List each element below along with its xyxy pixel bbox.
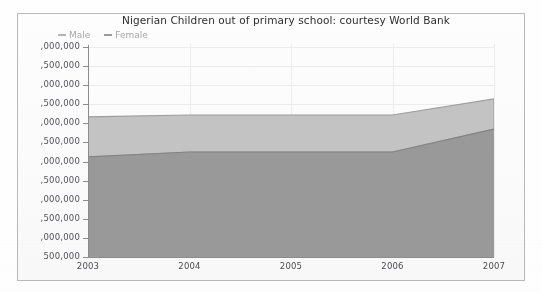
legend-item-male[interactable]: Male	[58, 30, 90, 40]
y-axis-line	[88, 45, 89, 258]
chart-legend: Male Female	[58, 30, 148, 40]
chart-title: Nigerian Children out of primary school:…	[0, 14, 542, 26]
chart-screenshot: Nigerian Children out of primary school:…	[0, 0, 542, 292]
x-axis-line	[88, 257, 494, 258]
legend-label-male: Male	[69, 30, 90, 40]
plot-area	[88, 44, 494, 258]
legend-item-female[interactable]: Female	[104, 30, 148, 40]
legend-label-female: Female	[115, 30, 148, 40]
series-areas	[88, 44, 494, 258]
legend-dash-icon-male	[58, 34, 66, 36]
legend-dash-icon-female	[104, 34, 112, 36]
